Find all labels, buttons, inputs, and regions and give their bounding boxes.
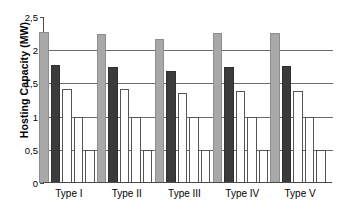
x-axis-tick-label: Type I xyxy=(55,188,82,199)
bar xyxy=(166,71,176,183)
chart-container: Hosting Capacity (MW) 00,511,522,5 Type … xyxy=(0,0,338,209)
bar xyxy=(131,117,141,183)
y-axis-tick-label: 2 xyxy=(33,45,38,56)
y-axis-tick-label: 0 xyxy=(33,178,38,189)
bar-group xyxy=(97,17,153,183)
bar xyxy=(143,150,153,183)
bar-group xyxy=(270,17,326,183)
y-axis-tick-label: 0,5 xyxy=(25,144,38,155)
bar xyxy=(155,39,165,183)
bar xyxy=(178,93,188,183)
bar xyxy=(62,89,72,183)
bar xyxy=(224,67,234,183)
bar-group xyxy=(39,17,95,183)
bar xyxy=(74,117,84,183)
bar xyxy=(201,150,211,183)
x-axis-line xyxy=(43,182,332,183)
x-axis-tick-label: Type IV xyxy=(225,188,259,199)
bar xyxy=(213,33,223,183)
bar xyxy=(259,150,269,183)
bar xyxy=(51,65,61,183)
plot-area: 00,511,522,5 xyxy=(43,17,332,183)
bar xyxy=(305,117,315,183)
x-axis-tick-label: Type V xyxy=(285,188,316,199)
bar xyxy=(316,150,326,183)
x-axis-tick-label: Type II xyxy=(112,188,142,199)
x-axis-tick-label: Type III xyxy=(168,188,201,199)
bar xyxy=(189,117,199,183)
bar xyxy=(85,150,95,183)
bar xyxy=(282,66,292,183)
y-axis-tick-label: 1 xyxy=(33,111,38,122)
bar xyxy=(108,67,118,183)
bar-group xyxy=(213,17,269,183)
bar xyxy=(247,117,257,183)
bar xyxy=(236,91,246,183)
y-axis-tick-label: 2,5 xyxy=(25,12,38,23)
y-axis-tick-label: 1,5 xyxy=(25,78,38,89)
bar xyxy=(97,34,107,183)
bar xyxy=(270,33,280,183)
bar-group xyxy=(155,17,211,183)
bar xyxy=(39,32,49,183)
bar xyxy=(293,91,303,183)
bar xyxy=(120,89,130,183)
